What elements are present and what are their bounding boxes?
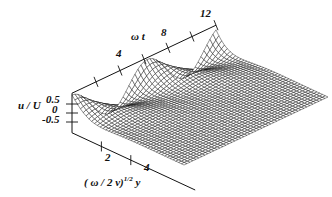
y-axis-label-exponent: 1/2	[124, 175, 133, 183]
t-axis-tick	[166, 43, 170, 53]
t-axis-tick	[190, 32, 194, 42]
y-tick-4: 4	[144, 162, 150, 173]
y-axis-label: ( ω / 2 ν)1/2 y	[84, 176, 140, 188]
y-axis-label-suffix: y	[133, 176, 141, 188]
t-axis-tick	[94, 77, 98, 87]
y-tick-2: 2	[105, 152, 111, 163]
t-axis-tick	[214, 20, 218, 30]
t-tick-8: 8	[161, 27, 167, 38]
t-axis-tick	[118, 66, 122, 76]
z-axis-label: u / U	[18, 100, 41, 111]
t-tick-4: 4	[116, 48, 122, 59]
z-tick-neg0.5: -0.5	[42, 114, 59, 125]
t-tick-12: 12	[200, 8, 211, 19]
y-axis-label-prefix: ( ω / 2 ν)	[84, 176, 124, 188]
t-axis-label: ω t	[131, 31, 145, 42]
surface-mesh	[72, 30, 328, 165]
